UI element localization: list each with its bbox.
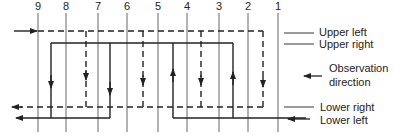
column-label-4: 4 (184, 0, 190, 12)
column-label-3: 3 (216, 0, 222, 12)
label-direction: direction (329, 76, 371, 88)
column-label-5: 5 (155, 0, 161, 12)
label-lower-right: Lower right (320, 101, 374, 113)
label-observation: Observation (329, 62, 388, 74)
label-upper-right: Upper right (319, 38, 373, 50)
column-label-7: 7 (95, 0, 101, 12)
column-label-6: 6 (124, 0, 130, 12)
legend-leaders (284, 33, 314, 107)
label-lower-left: Lower left (320, 114, 368, 126)
column-label-8: 8 (63, 0, 69, 12)
label-upper-left: Upper left (319, 26, 367, 38)
column-label-2: 2 (245, 0, 251, 12)
column-label-9: 9 (35, 0, 41, 12)
column-label-1: 1 (275, 0, 281, 12)
